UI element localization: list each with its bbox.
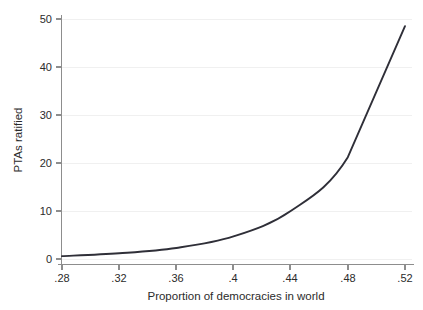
x-tick-label-0.4: .4	[228, 272, 237, 284]
y-axis-title: PTAs ratified	[12, 108, 24, 173]
y-tick-label-30: 30	[40, 109, 52, 121]
x-tick-label-0.36: .36	[168, 272, 183, 284]
y-tick-label-50: 50	[40, 13, 52, 25]
x-axis-title: Proportion of democracies in world	[147, 290, 324, 302]
y-tick-label-40: 40	[40, 61, 52, 73]
x-tick-label-0.44: .44	[282, 272, 297, 284]
y-tick-label-10: 10	[40, 205, 52, 217]
y-tick-label-20: 20	[40, 157, 52, 169]
y-tick-label-0: 0	[46, 253, 52, 265]
x-tick-label-0.28: .28	[54, 272, 69, 284]
chart-container: 50 40 30 20 10 0 .28 .32 .36 .4 .44 .48 …	[0, 0, 423, 310]
x-tick-label-0.52: .52	[397, 272, 412, 284]
line-chart: 50 40 30 20 10 0 .28 .32 .36 .4 .44 .48 …	[0, 0, 423, 310]
x-tick-label-0.32: .32	[111, 272, 126, 284]
chart-background	[0, 0, 423, 310]
x-tick-label-0.48: .48	[340, 272, 355, 284]
